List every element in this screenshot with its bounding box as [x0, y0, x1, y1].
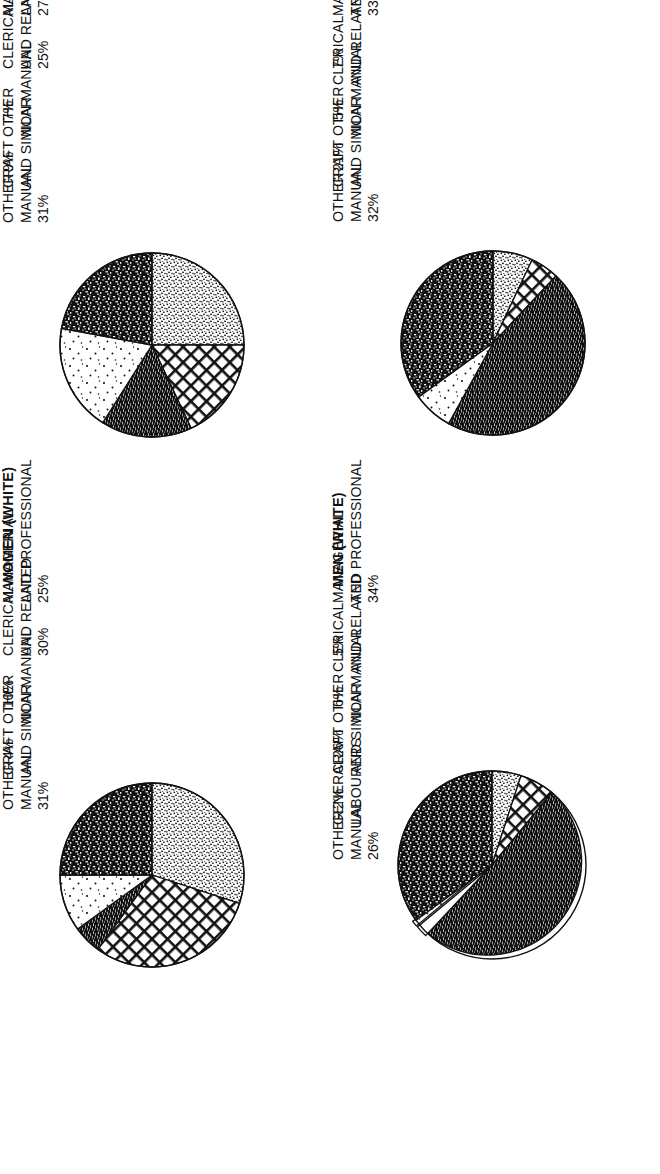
panel-women-white: WOMEN (WHITE) MANAGERIAL AND PROFESSIONA…: [0, 587, 330, 1174]
label-line-2: MANUAL: [18, 480, 36, 810]
label-percent: 26%: [365, 530, 383, 860]
label-percent: 32%: [365, 0, 383, 222]
label-other-manual-men-white: OTHER MANUAL 26%: [330, 530, 383, 860]
label-other-manual-women-non-white: OTHER MANUAL 31%: [0, 0, 53, 223]
label-line-1: OTHER: [330, 0, 348, 222]
label-other-manual-women-white: OTHER MANUAL 31%: [0, 480, 53, 810]
label-line-1: OTHER: [0, 0, 18, 223]
slice-clerical: [152, 253, 244, 345]
pie-chart-women-non-white: [52, 245, 252, 445]
pie-chart-men-white: [390, 765, 600, 975]
pie-chart-women-white: [52, 775, 252, 975]
slice-managerial: [62, 253, 153, 345]
label-line-2: MANUAL: [348, 0, 366, 222]
label-other-manual-men-non-white: OTHER MANUAL 32%: [330, 0, 383, 222]
label-percent: 31%: [35, 480, 53, 810]
slice-managerial: [60, 783, 152, 875]
label-line-2: MANUAL: [18, 0, 36, 223]
label-line-1: OTHER: [0, 480, 18, 810]
panel-men-white: MEN (WHITE) MANAGERIAL AND PROFESSIONAL …: [330, 587, 660, 1174]
label-line-1: OTHER: [330, 530, 348, 860]
pie-chart-men-non-white: [393, 243, 593, 443]
label-line-2: MANUAL: [348, 530, 366, 860]
label-percent: 31%: [35, 0, 53, 223]
